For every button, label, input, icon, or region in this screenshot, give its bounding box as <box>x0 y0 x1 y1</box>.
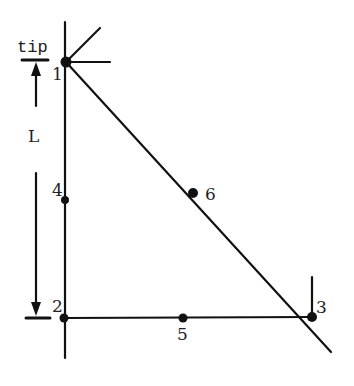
triangle-element-diagram: tip L 1 2 3 4 5 6 <box>0 0 354 386</box>
dimension-arrow-up-icon <box>31 62 41 76</box>
node-4-label: 4 <box>52 180 63 200</box>
edge-hypotenuse <box>66 62 331 352</box>
node-5-label: 5 <box>177 324 188 344</box>
edge-bottom <box>64 317 312 318</box>
length-label: L <box>28 126 39 146</box>
node1-ray-diagonal <box>66 28 100 62</box>
node-3-label: 3 <box>316 297 327 317</box>
node-2-label: 2 <box>52 296 63 316</box>
dimension-arrow-down-icon <box>31 302 41 316</box>
node-6 <box>188 188 198 198</box>
tip-label: tip <box>17 38 48 57</box>
node-1-label: 1 <box>52 64 63 84</box>
node-6-label: 6 <box>205 184 216 204</box>
node-5 <box>179 314 188 323</box>
